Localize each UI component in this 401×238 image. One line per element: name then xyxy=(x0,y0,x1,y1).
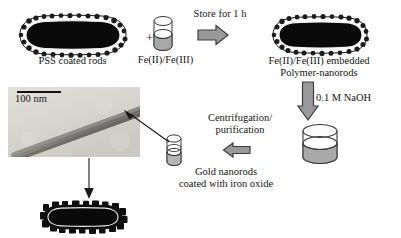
fe-embedded-line-1: Fe(II)/Fe(III) embedded xyxy=(237,55,401,67)
gold-nanorods-label: Gold nanorods coated with iron oxide xyxy=(152,166,300,190)
centrifugation-arrow-left-icon xyxy=(222,142,252,158)
store-step-label: Store for 1 h xyxy=(182,8,258,20)
centrifugation-step-label: Centrifugation/ purification xyxy=(184,112,296,136)
fe-embedded-polymer-nanorods-label: Fe(II)/Fe(III) embedded Polymer-nanorods xyxy=(237,55,401,79)
reaction-scheme-figure: PSS coated rods + Fe(II)/Fe(III) Store f… xyxy=(0,0,401,238)
iron-oxide-coated-gold-nanorod-illustration xyxy=(35,198,135,236)
vial-to-tem-pointer-arrow-icon xyxy=(123,108,171,146)
tem-to-product-pointer-arrow-icon xyxy=(82,158,96,200)
gold-nanorods-line-1: Gold nanorods xyxy=(152,166,300,178)
iron-precursor-label: Fe(II)/Fe(III) xyxy=(118,54,213,66)
centrifugation-line-1: Centrifugation/ xyxy=(184,112,296,124)
gold-nanorods-line-2: coated with iron oxide xyxy=(152,178,300,190)
fe-embedded-polymer-nanorod-illustration xyxy=(268,14,372,56)
store-step-arrow-right-icon xyxy=(196,24,230,46)
fe-embedded-line-2: Polymer-nanorods xyxy=(237,67,401,79)
iron-precursor-vial-illustration xyxy=(150,16,176,52)
pss-coated-nanorod-illustration xyxy=(14,13,132,57)
centrifugation-line-2: purification xyxy=(184,124,296,136)
reaction-beaker-illustration xyxy=(296,124,344,168)
tem-scale-bar-label: 100 nm xyxy=(15,93,47,104)
tem-micrograph: 100 nm xyxy=(8,87,140,157)
naoh-step-label: 0.1 M NaOH xyxy=(316,92,401,104)
tem-image-frame: 100 nm xyxy=(8,87,140,157)
